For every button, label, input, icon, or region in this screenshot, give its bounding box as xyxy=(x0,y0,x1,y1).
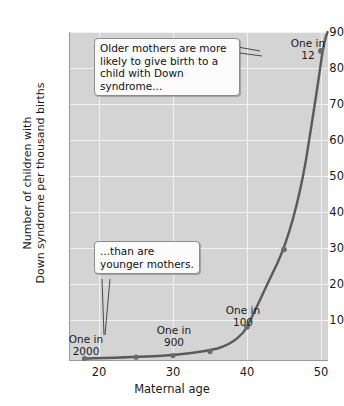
gridline-y-10 xyxy=(70,320,328,321)
gridline-y-40 xyxy=(70,212,328,213)
y-axis-title: Number of children with Down syndrome pe… xyxy=(21,63,47,303)
callout-younger-mothers: ...than are younger mothers. xyxy=(94,241,200,274)
gridline-y-20 xyxy=(70,284,328,285)
y-tick-label-70: 70 xyxy=(316,99,344,110)
x-tick-label-20: 20 xyxy=(84,365,114,379)
gridline-x-50 xyxy=(321,32,322,360)
gridline-y-90 xyxy=(70,32,328,33)
point-label-one-in-12: One in 12 xyxy=(281,38,335,61)
point-label-one-in-900: One in 900 xyxy=(143,325,205,348)
point-label-one-in-2000: One in 2000 xyxy=(55,334,117,357)
y-axis-line xyxy=(69,32,70,361)
gridline-y-70 xyxy=(70,104,328,105)
y-tick-label-50: 50 xyxy=(316,171,344,182)
y-axis-title-line1: Number of children with xyxy=(21,63,34,303)
x-tick-label-50: 50 xyxy=(306,365,336,379)
y-tick-label-10: 10 xyxy=(316,315,344,326)
y-tick-label-80: 80 xyxy=(316,63,344,74)
gridline-y-60 xyxy=(70,140,328,141)
x-axis-title: Maternal age xyxy=(0,382,344,396)
x-tick-label-40: 40 xyxy=(232,365,262,379)
y-tick-label-20: 20 xyxy=(316,279,344,290)
point-label-one-in-100: One in 100 xyxy=(212,305,274,328)
callout-older-mothers: Older mothers are more likely to give bi… xyxy=(94,38,240,96)
down-syndrome-maternal-age-chart: 90 80 70 60 50 40 30 20 10 20 30 40 50 M… xyxy=(0,0,344,406)
y-tick-label-40: 40 xyxy=(316,207,344,218)
gridline-y-50 xyxy=(70,176,328,177)
y-tick-label-60: 60 xyxy=(316,135,344,146)
y-tick-label-30: 30 xyxy=(316,243,344,254)
y-axis-title-line2: Down syndrome per thousand births xyxy=(34,63,47,303)
x-axis-line xyxy=(69,360,328,361)
x-tick-label-30: 30 xyxy=(158,365,188,379)
